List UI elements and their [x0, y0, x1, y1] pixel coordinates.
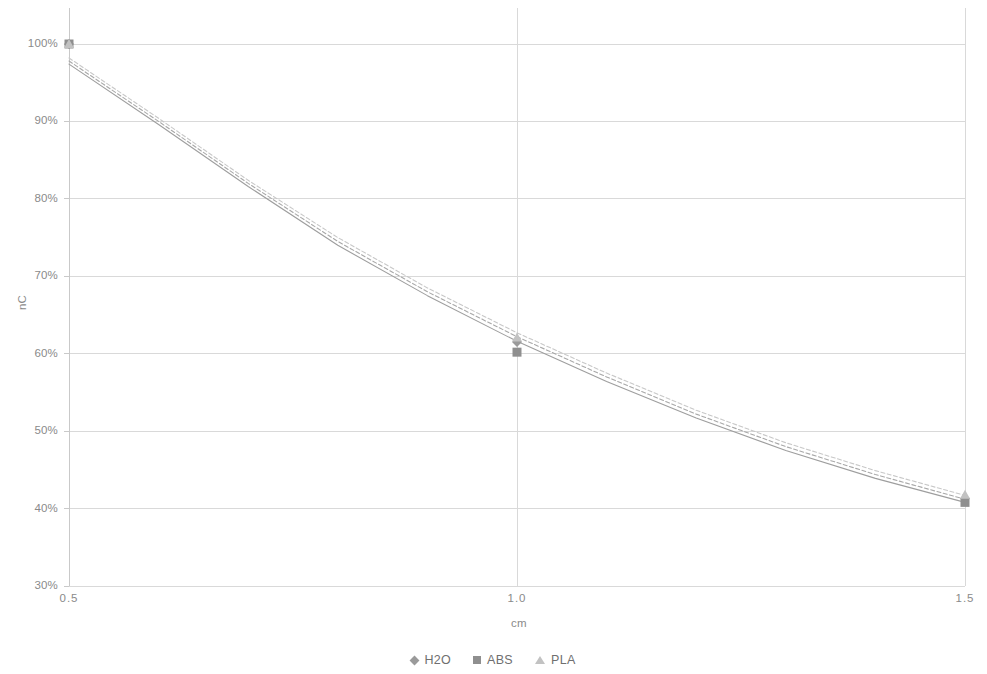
legend-label-h2o: H2O — [424, 653, 451, 667]
x-axis-title: cm — [479, 617, 559, 629]
y-axis-tick-label: 50% — [14, 424, 58, 436]
data-point-abs — [513, 348, 522, 357]
x-axis-tick-label: 1.0 — [487, 592, 547, 604]
data-point-abs — [961, 498, 970, 507]
chart-plot-svg — [0, 0, 987, 674]
square-marker-icon — [473, 656, 481, 664]
y-axis-tick-label: 40% — [14, 502, 58, 514]
diamond-marker-icon — [410, 655, 420, 665]
legend-entry-h2o: H2O — [411, 653, 451, 667]
y-axis-tick-label: 60% — [14, 347, 58, 359]
x-axis-tick-label: 0.5 — [39, 592, 99, 604]
gridlines-group — [69, 8, 965, 586]
chart-legend: H2O ABS PLA — [0, 650, 987, 670]
data-point-pla — [960, 490, 970, 499]
legend-label-abs: ABS — [487, 653, 513, 667]
axes-group — [64, 8, 69, 586]
y-axis-tick-label: 80% — [14, 192, 58, 204]
y-axis-tick-label: 30% — [14, 579, 58, 591]
legend-entry-pla: PLA — [535, 653, 576, 667]
y-axis-tick-label: 100% — [14, 37, 58, 49]
chart-container: 30%40%50%60%70%80%90%100% 0.51.01.5 nC c… — [0, 0, 987, 674]
triangle-marker-icon — [535, 656, 545, 664]
y-axis-tick-label: 70% — [14, 269, 58, 281]
legend-entry-abs: ABS — [473, 653, 513, 667]
legend-label-pla: PLA — [551, 653, 576, 667]
y-axis-tick-label: 90% — [14, 114, 58, 126]
x-axis-tick-label: 1.5 — [935, 592, 987, 604]
y-axis-title: nC — [16, 295, 28, 310]
